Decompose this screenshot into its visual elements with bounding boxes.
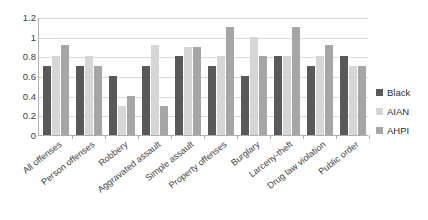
legend-swatch-icon [376, 89, 383, 96]
bar-chart-figure: 00.20.40.60.811.2 All offensesPerson off… [0, 0, 428, 220]
bar-group [303, 18, 336, 135]
bar [43, 66, 51, 135]
legend-item[interactable]: Black [376, 83, 428, 102]
x-tick-mark [105, 135, 106, 139]
bar [250, 37, 258, 135]
x-tick-mark [138, 135, 139, 139]
bar [274, 56, 282, 135]
x-tick-mark [204, 135, 205, 139]
bar [94, 66, 102, 135]
bar [151, 45, 159, 135]
y-tick-label: 0 [2, 131, 36, 141]
bar [142, 66, 150, 135]
chart-legend: BlackAIANAHPI [376, 83, 428, 140]
bar-group [138, 18, 171, 135]
bar [325, 45, 333, 135]
bar-group [72, 18, 105, 135]
bar [349, 66, 357, 135]
legend-item[interactable]: AHPI [376, 121, 428, 140]
bar-group [270, 18, 303, 135]
bar [61, 45, 69, 135]
bar [292, 27, 300, 135]
x-tick-mark [369, 135, 370, 139]
bar-group [105, 18, 138, 135]
bar-group [336, 18, 369, 135]
bar-group [39, 18, 72, 135]
bars-layer [39, 18, 368, 135]
bar [85, 56, 93, 135]
x-tick-mark [303, 135, 304, 139]
bar [127, 96, 135, 135]
bar [340, 56, 348, 135]
legend-label: AHPI [387, 126, 409, 136]
legend-item[interactable]: AIAN [376, 102, 428, 121]
x-tick-mark [270, 135, 271, 139]
x-tick-mark [237, 135, 238, 139]
bar [160, 106, 168, 136]
bar [208, 66, 216, 135]
bar [217, 56, 225, 135]
bar [118, 106, 126, 136]
bar [283, 56, 291, 135]
y-tick-label: 0.4 [2, 92, 36, 102]
bar [175, 56, 183, 135]
bar [226, 27, 234, 135]
x-tick-mark [336, 135, 337, 139]
legend-swatch-icon [376, 127, 383, 134]
legend-swatch-icon [376, 108, 383, 115]
legend-label: AIAN [387, 107, 409, 117]
y-tick-label: 0.2 [2, 112, 36, 122]
bar-group [171, 18, 204, 135]
bar [76, 66, 84, 135]
bar [259, 56, 267, 135]
x-axis: All offensesPerson offensesRobberyAggrav… [38, 140, 378, 220]
bar [358, 66, 366, 135]
plot-area [38, 18, 368, 136]
bar-group [204, 18, 237, 135]
y-axis: 00.20.40.60.811.2 [0, 18, 36, 136]
bar [184, 47, 192, 136]
bar [316, 56, 324, 135]
y-tick-label: 1.2 [2, 13, 36, 23]
bar [307, 66, 315, 135]
bar [109, 76, 117, 135]
bar [52, 56, 60, 135]
y-tick-label: 1 [2, 33, 36, 43]
bar [193, 47, 201, 136]
y-tick-label: 0.8 [2, 53, 36, 63]
bar-group [237, 18, 270, 135]
y-tick-label: 0.6 [2, 72, 36, 82]
legend-label: Black [387, 88, 410, 98]
bar [241, 76, 249, 135]
x-tick-mark [72, 135, 73, 139]
x-tick-mark [171, 135, 172, 139]
